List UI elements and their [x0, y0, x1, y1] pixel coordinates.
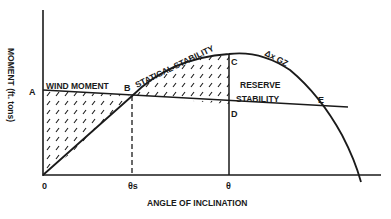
curve-label: Δx GZ: [263, 48, 290, 69]
reserve-label: RESERVE: [240, 80, 281, 90]
point-c-label: C: [231, 57, 238, 67]
point-b-label: B: [124, 83, 131, 93]
stability-diagram: MOMENT (ft. tons) A WIND MOMENT B STATIC…: [0, 0, 391, 219]
theta-tick-label: θ: [226, 181, 231, 191]
stability-label: STABILITY: [236, 94, 280, 104]
y-axis-label: MOMENT (ft. tons): [6, 48, 16, 122]
point-d-label: D: [231, 109, 238, 119]
point-a-label: A: [29, 87, 36, 97]
wind-moment-label: WIND MOMENT: [46, 81, 110, 91]
point-e-label: E: [318, 95, 324, 105]
theta-s-tick-label: θs: [128, 181, 138, 191]
x-axis-label: ANGLE OF INCLINATION: [147, 198, 247, 208]
origin-label: 0: [42, 181, 47, 191]
